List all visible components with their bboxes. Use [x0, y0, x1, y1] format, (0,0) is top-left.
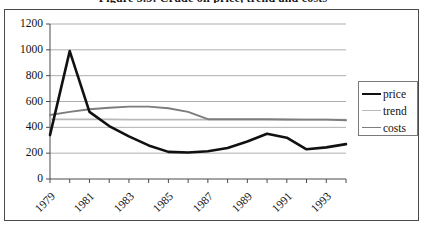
legend-item-trend: trend: [362, 103, 418, 119]
legend-item-price: price: [362, 86, 418, 102]
legend-swatch-trend: [362, 110, 381, 111]
figure-container: Figure 5.5: Crude oil price, trend and c…: [0, 0, 426, 226]
y-tick-label: 400: [9, 120, 43, 132]
y-tick-label: 800: [9, 69, 43, 81]
legend-label-costs: costs: [383, 120, 406, 136]
legend-swatch-costs: [362, 127, 381, 128]
legend-label-trend: trend: [383, 103, 407, 119]
chart-legend: price trend costs: [358, 81, 418, 136]
legend-label-price: price: [383, 86, 406, 102]
legend-item-costs: costs: [362, 120, 418, 136]
y-tick-label: 1200: [9, 17, 43, 29]
y-tick-label: 600: [9, 95, 43, 107]
y-tick-label: 1000: [9, 43, 43, 55]
figure-title: Figure 5.5: Crude oil price, trend and c…: [0, 0, 426, 3]
chart-frame: price trend costs 020040060080010001200 …: [4, 9, 419, 221]
line-chart-plot: [5, 10, 418, 220]
y-tick-label: 0: [9, 172, 43, 184]
legend-swatch-price: [362, 93, 381, 95]
y-tick-label: 200: [9, 146, 43, 158]
